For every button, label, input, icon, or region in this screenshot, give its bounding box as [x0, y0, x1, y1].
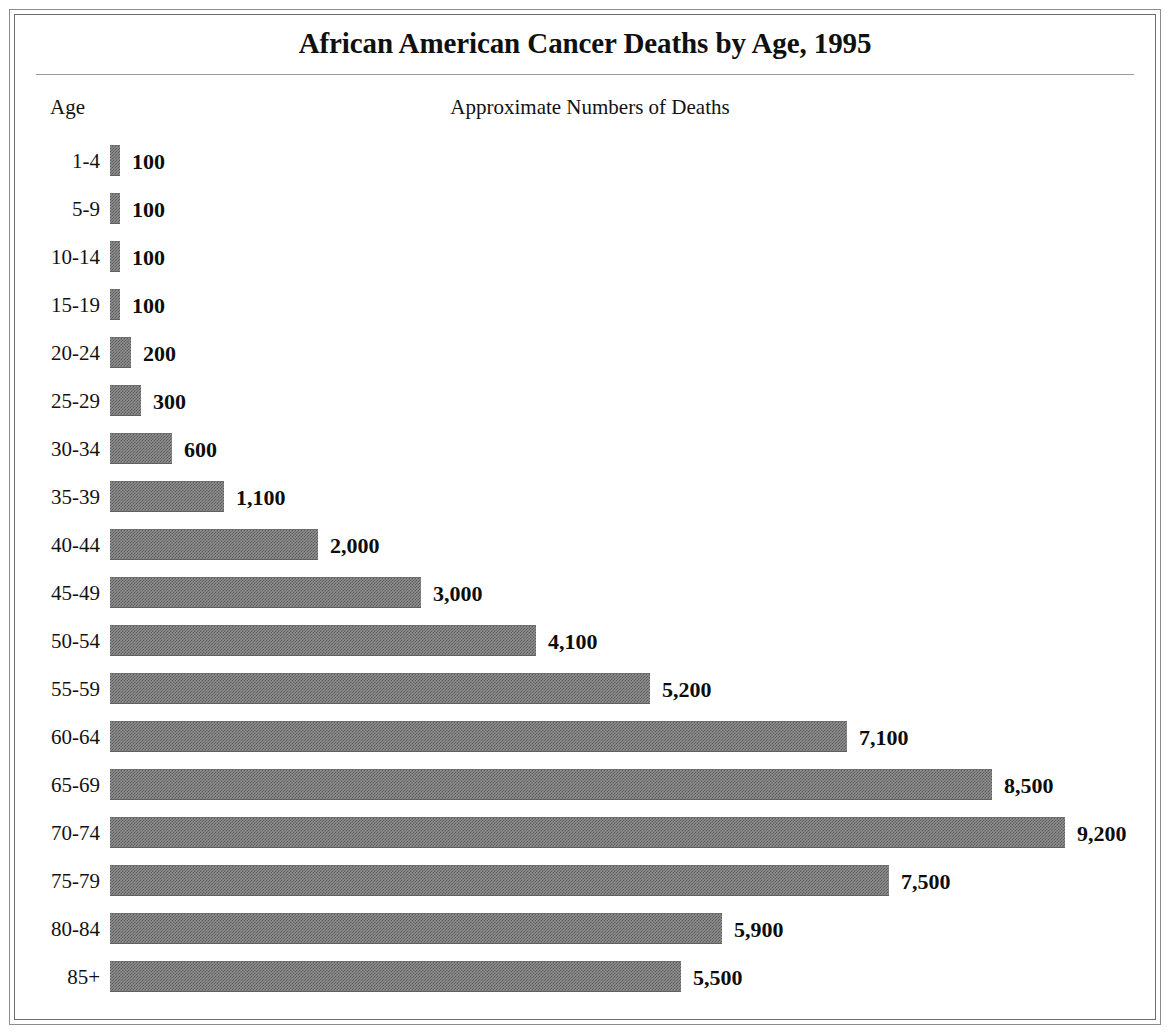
bar-track: 600: [110, 433, 1150, 464]
bar-value-label: 5,900: [734, 917, 784, 940]
bar-track: 9,200: [110, 817, 1150, 848]
bar-age-label: 45-49: [0, 582, 100, 604]
bar-age-label: 75-79: [0, 870, 100, 892]
bar-age-label: 40-44: [0, 534, 100, 556]
bar-track: 200: [110, 337, 1150, 368]
bar-value-label: 7,500: [901, 869, 951, 892]
bar-track: 3,000: [110, 577, 1150, 608]
bar-row: 45-493,000: [0, 577, 1140, 608]
bar-age-label: 35-39: [0, 486, 100, 508]
bar-row: 80-845,900: [0, 913, 1140, 944]
bar-value-label: 100: [132, 293, 165, 316]
bar-rect: [110, 961, 681, 992]
bar-track: 5,200: [110, 673, 1150, 704]
bar-value-label: 100: [132, 245, 165, 268]
bar-age-label: 10-14: [0, 246, 100, 268]
bar-rect: [110, 241, 120, 272]
bar-row: 65-698,500: [0, 769, 1140, 800]
bar-rect: [110, 817, 1065, 848]
bar-track: 100: [110, 289, 1150, 320]
bar-age-label: 80-84: [0, 918, 100, 940]
bar-track: 100: [110, 145, 1150, 176]
bar-value-label: 7,100: [859, 725, 909, 748]
bar-rect: [110, 865, 889, 896]
bar-rect: [110, 721, 847, 752]
bar-value-label: 5,500: [693, 965, 743, 988]
bar-track: 5,500: [110, 961, 1150, 992]
bar-value-label: 300: [153, 389, 186, 412]
bar-age-label: 15-19: [0, 294, 100, 316]
bar-track: 5,900: [110, 913, 1150, 944]
bar-track: 7,500: [110, 865, 1150, 896]
bar-value-label: 4,100: [548, 629, 598, 652]
bar-age-label: 5-9: [0, 198, 100, 220]
bar-rect: [110, 433, 172, 464]
bar-rect: [110, 577, 421, 608]
bar-row: 40-442,000: [0, 529, 1140, 560]
bar-rect: [110, 193, 120, 224]
bar-row: 85+5,500: [0, 961, 1140, 992]
bar-age-label: 70-74: [0, 822, 100, 844]
bar-rect: [110, 337, 131, 368]
bar-value-label: 2,000: [330, 533, 380, 556]
bar-row: 5-9100: [0, 193, 1140, 224]
bar-value-label: 100: [132, 197, 165, 220]
bar-row: 35-391,100: [0, 481, 1140, 512]
bar-age-label: 50-54: [0, 630, 100, 652]
bar-value-label: 100: [132, 149, 165, 172]
bar-row: 10-14100: [0, 241, 1140, 272]
bar-row: 20-24200: [0, 337, 1140, 368]
bar-track: 2,000: [110, 529, 1150, 560]
bar-track: 100: [110, 193, 1150, 224]
bar-value-label: 200: [143, 341, 176, 364]
bar-rect: [110, 913, 722, 944]
bar-row: 75-797,500: [0, 865, 1140, 896]
bar-row: 1-4100: [0, 145, 1140, 176]
bar-age-label: 85+: [0, 966, 100, 988]
bar-rect: [110, 625, 536, 656]
bar-track: 1,100: [110, 481, 1150, 512]
bar-age-label: 30-34: [0, 438, 100, 460]
bar-rect: [110, 385, 141, 416]
bar-track: 300: [110, 385, 1150, 416]
bar-value-label: 5,200: [662, 677, 712, 700]
bar-value-label: 600: [184, 437, 217, 460]
bar-row: 70-749,200: [0, 817, 1140, 848]
bar-chart-plot-area: 1-41005-910010-1410015-1910020-2420025-2…: [0, 0, 1171, 1035]
bar-age-label: 65-69: [0, 774, 100, 796]
bar-age-label: 1-4: [0, 150, 100, 172]
bar-track: 7,100: [110, 721, 1150, 752]
bar-value-label: 8,500: [1004, 773, 1054, 796]
bar-value-label: 1,100: [236, 485, 286, 508]
bar-age-label: 60-64: [0, 726, 100, 748]
bar-track: 100: [110, 241, 1150, 272]
bar-rect: [110, 673, 650, 704]
bar-row: 55-595,200: [0, 673, 1140, 704]
bar-value-label: 9,200: [1077, 821, 1127, 844]
bar-age-label: 25-29: [0, 390, 100, 412]
bar-rect: [110, 145, 120, 176]
bar-rect: [110, 529, 318, 560]
bar-row: 30-34600: [0, 433, 1140, 464]
bar-row: 60-647,100: [0, 721, 1140, 752]
bar-row: 50-544,100: [0, 625, 1140, 656]
bar-track: 4,100: [110, 625, 1150, 656]
bar-rect: [110, 289, 120, 320]
bar-row: 25-29300: [0, 385, 1140, 416]
bar-row: 15-19100: [0, 289, 1140, 320]
bar-rect: [110, 769, 992, 800]
bar-track: 8,500: [110, 769, 1150, 800]
bar-rect: [110, 481, 224, 512]
bar-value-label: 3,000: [433, 581, 483, 604]
bar-age-label: 55-59: [0, 678, 100, 700]
bar-age-label: 20-24: [0, 342, 100, 364]
